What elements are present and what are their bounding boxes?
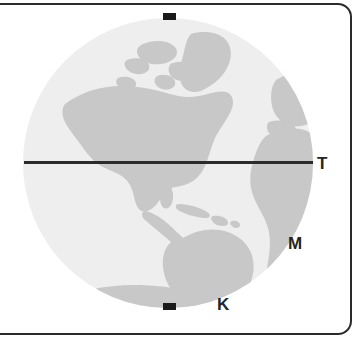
south-pole-tick-marker — [163, 303, 176, 310]
british-isles-shape — [283, 61, 304, 76]
diagram-canvas: T M K — [0, 0, 362, 342]
label-m: M — [288, 235, 302, 252]
label-k: K — [217, 296, 229, 313]
label-t: T — [317, 155, 327, 172]
equator-line — [24, 161, 313, 164]
north-pole-tick-marker — [163, 13, 176, 20]
antarctica-shape — [39, 285, 279, 308]
